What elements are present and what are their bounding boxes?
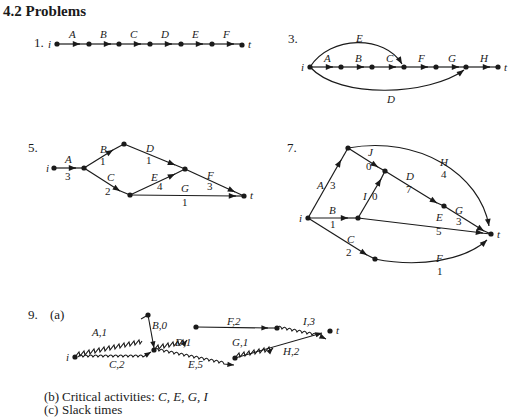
svg-text:C: C [130,28,138,40]
svg-text:B,0: B,0 [152,319,167,331]
svg-text:B: B [100,28,107,40]
p1-node-t: t [248,38,252,50]
svg-text:7: 7 [406,183,412,195]
svg-text:1: 1 [330,218,336,230]
svg-text:1: 1 [146,154,152,166]
svg-text:i: i [66,351,69,363]
svg-text:4: 4 [157,180,163,192]
svg-text:t: t [250,189,254,201]
svg-text:A: A [64,153,72,165]
svg-text:D: D [160,28,169,40]
part-c-text: Slack times [62,402,122,417]
svg-text:E: E [191,28,199,40]
svg-text:5: 5 [436,225,442,237]
svg-text:i: i [301,61,304,73]
svg-text:B: B [355,52,362,64]
svg-text:t: t [497,228,501,240]
svg-text:D: D [405,170,414,182]
svg-text:0: 0 [372,190,378,202]
svg-text:H: H [479,52,489,64]
svg-text:G,1: G,1 [232,336,248,348]
svg-text:t: t [504,61,508,73]
svg-text:C: C [347,233,355,245]
svg-text:D: D [386,93,395,105]
svg-text:E,5: E,5 [187,358,203,370]
svg-text:3: 3 [207,180,213,192]
svg-text:1: 1 [100,155,106,167]
svg-text:3: 3 [330,179,336,191]
svg-text:G: G [448,52,456,64]
svg-text:J: J [368,146,374,158]
svg-text:A: A [323,52,331,64]
svg-text:I: I [362,190,368,202]
svg-text:F,2: F,2 [226,315,241,327]
svg-text:1: 1 [182,196,188,208]
svg-text:G: G [181,182,189,194]
svg-text:D: D [145,142,154,154]
svg-text:E: E [435,211,443,223]
part-c-label: (c) [44,402,62,418]
svg-text:H,2: H,2 [282,345,300,357]
critical-activities: C, E, G, I [158,389,208,404]
svg-text:A: A [68,28,76,40]
svg-text:i: i [46,162,49,174]
svg-text:C: C [386,52,394,64]
svg-text:3: 3 [65,170,71,182]
svg-text:E: E [355,32,363,44]
svg-text:I,3: I,3 [302,315,315,327]
svg-text:3: 3 [456,215,462,227]
svg-text:C: C [107,171,115,183]
svg-text:2: 2 [346,246,352,258]
p1-node-i: i [48,38,51,50]
svg-text:B: B [100,143,107,155]
svg-text:H: H [439,156,449,168]
svg-text:4: 4 [441,168,447,180]
svg-text:F: F [417,52,425,64]
svg-text:1: 1 [437,265,443,277]
svg-text:A,1: A,1 [91,326,107,338]
svg-text:A: A [316,179,324,191]
svg-text:D,1: D,1 [174,336,191,348]
svg-text:t: t [336,324,340,336]
svg-text:F: F [222,28,230,40]
problem-9-part-c: (c)Slack times [44,402,122,418]
svg-text:2: 2 [105,185,111,197]
svg-text:C,2: C,2 [109,358,125,370]
svg-text:B: B [329,204,336,216]
svg-text:i: i [299,212,302,224]
svg-text:F: F [435,252,443,264]
network-diagrams: i t AB CD EF it AB CF GH ED it A3 B1 C2 [0,0,515,418]
svg-text:0: 0 [366,160,372,172]
